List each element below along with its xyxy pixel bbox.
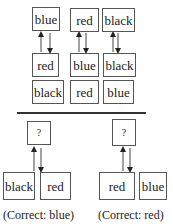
- caption-1: (Correct: blue): [3, 208, 74, 223]
- option-box-1b: red: [40, 172, 71, 200]
- bottom-box-1: black: [32, 80, 64, 104]
- divider-line: [17, 112, 146, 114]
- query-box-2: ?: [112, 119, 136, 146]
- bottom-box-2: red: [70, 80, 99, 104]
- middle-box-1: red: [32, 53, 59, 77]
- middle-box-3: black: [103, 53, 136, 77]
- query-box-1: ?: [27, 121, 51, 145]
- target-box-1: blue: [32, 7, 60, 31]
- option-box-1a: black: [3, 172, 35, 200]
- bottom-box-3: blue: [103, 80, 134, 104]
- caption-2: (Correct: red): [98, 208, 164, 223]
- target-box-3: black: [102, 8, 135, 32]
- middle-box-2: blue: [70, 53, 99, 77]
- target-box-2: red: [70, 8, 99, 32]
- option-box-2b: blue: [139, 172, 167, 200]
- option-box-2a: red: [99, 172, 135, 200]
